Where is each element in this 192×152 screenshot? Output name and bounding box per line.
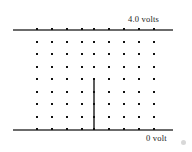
grid-dot (123, 103, 125, 105)
grid-dot (93, 66, 95, 68)
grid-dot (153, 128, 155, 130)
grid-dot (108, 103, 110, 105)
grid-dot (123, 53, 125, 55)
grid-dot (81, 28, 83, 30)
grid-dot (123, 91, 125, 93)
grid-dot (123, 28, 125, 30)
grid-dot (66, 91, 68, 93)
grid-dot (36, 91, 38, 93)
grid-dot (51, 116, 53, 118)
grid-dot (51, 41, 53, 43)
grid-dot (81, 78, 83, 80)
grid-dot (36, 66, 38, 68)
grid-dot (138, 28, 140, 30)
grid-dot (138, 41, 140, 43)
grid-dot (108, 41, 110, 43)
grid-dot (81, 128, 83, 130)
grid-dot (66, 103, 68, 105)
grid-dot (51, 66, 53, 68)
grid-dot (81, 91, 83, 93)
grid-dot (108, 116, 110, 118)
grid-dot (138, 66, 140, 68)
grid-dot (36, 78, 38, 80)
grid-dot (93, 128, 95, 130)
grid-dot (81, 116, 83, 118)
grid-dot (123, 116, 125, 118)
grid-dot (51, 28, 53, 30)
grid-dot (123, 78, 125, 80)
grid-dot (51, 91, 53, 93)
grid-dot (123, 66, 125, 68)
grid-dot (66, 116, 68, 118)
grid-dot (138, 128, 140, 130)
grid-dot (81, 103, 83, 105)
resize-handle-artifact (181, 140, 186, 145)
grid-dot (153, 91, 155, 93)
grid-dot (153, 53, 155, 55)
grid-dot (153, 28, 155, 30)
bottom-plate-voltage-label: 0 volt (146, 133, 167, 143)
grid-dot (93, 103, 95, 105)
grid-dot (51, 103, 53, 105)
grid-dot (138, 116, 140, 118)
grid-dot (51, 53, 53, 55)
capacitor-field-diagram: 4.0 volts 0 volt (0, 0, 192, 152)
grid-dot (66, 128, 68, 130)
grid-dot (93, 78, 95, 80)
grid-dot (108, 91, 110, 93)
grid-dot (123, 41, 125, 43)
grid-dot (36, 103, 38, 105)
grid-dot (36, 41, 38, 43)
grid-dot (153, 41, 155, 43)
grid-dot (108, 66, 110, 68)
grid-dot (108, 78, 110, 80)
grid-dot (36, 128, 38, 130)
grid-dot (36, 28, 38, 30)
grid-dot (153, 116, 155, 118)
top-plate-voltage-label: 4.0 volts (128, 14, 159, 24)
grid-dot (93, 116, 95, 118)
grid-dot (93, 41, 95, 43)
grid-dot (66, 53, 68, 55)
grid-dot (66, 78, 68, 80)
grid-dot (108, 128, 110, 130)
grid-dot (81, 66, 83, 68)
grid-dot (51, 78, 53, 80)
grid-dot (138, 91, 140, 93)
grid-dot (108, 28, 110, 30)
grid-dot (108, 53, 110, 55)
grid-dot (81, 53, 83, 55)
grid-dot (36, 116, 38, 118)
grid-dot (93, 53, 95, 55)
grid-dot (123, 128, 125, 130)
grid-dot (66, 66, 68, 68)
grid-dot (138, 53, 140, 55)
grid-dot (36, 53, 38, 55)
grid-dot (51, 128, 53, 130)
grid-dot (93, 28, 95, 30)
grid-dot (93, 91, 95, 93)
grid-dot (138, 78, 140, 80)
grid-dot (66, 41, 68, 43)
grid-dot (81, 41, 83, 43)
grid-dot (153, 78, 155, 80)
grid-dot (153, 66, 155, 68)
grid-dot (153, 103, 155, 105)
grid-dot (66, 28, 68, 30)
grid-dot (138, 103, 140, 105)
